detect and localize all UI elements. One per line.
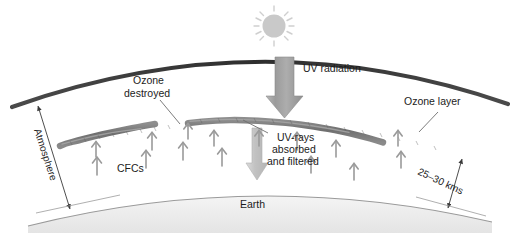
diagram-canvas: Ozone destroyed UV radiation Ozone layer… [0, 0, 518, 233]
label-uv-absorbed-line3: and filtered [267, 155, 319, 167]
label-ozone-destroyed-line1: Ozone [133, 74, 164, 86]
label-cfcs: CFCs [117, 162, 144, 174]
uv-absorbed-arrow [246, 128, 268, 180]
label-earth: Earth [240, 198, 265, 210]
sun-disc [263, 15, 286, 38]
uv-radiation-arrow-shape [266, 57, 303, 118]
ozone-destroyed-leader-line [160, 100, 180, 124]
label-ozone-destroyed-line2: destroyed [124, 87, 170, 99]
cfc-arrow [332, 140, 340, 157]
label-uv-radiation: UV radiation [303, 62, 361, 74]
uv-absorbed-arrow-shape [246, 128, 268, 180]
label-altitude: 25–30 kms [416, 166, 465, 197]
label-ozone-layer: Ozone layer [404, 95, 461, 107]
cfc-arrow [179, 142, 188, 160]
cfc-arrow [210, 130, 218, 146]
label-uv-absorbed-line2: absorbed [272, 143, 316, 155]
ozone-layer-leader-line [419, 112, 438, 132]
uv-radiation-arrow [266, 57, 303, 118]
cfc-arrow [218, 148, 227, 166]
sun-icon [254, 6, 294, 46]
ozone-band-left [60, 124, 155, 146]
ozone-layer-diagram: Ozone destroyed UV radiation Ozone layer… [0, 0, 518, 233]
cfc-arrow [350, 163, 358, 180]
cfc-arrow [397, 151, 405, 168]
cfc-arrow [394, 130, 402, 146]
label-uv-absorbed-line1: UV-rays [277, 131, 314, 143]
cfc-arrow [148, 132, 157, 150]
cfc-arrow [93, 157, 102, 175]
cfc-arrow [92, 142, 100, 158]
label-atmosphere: Atmosphere [32, 127, 59, 182]
